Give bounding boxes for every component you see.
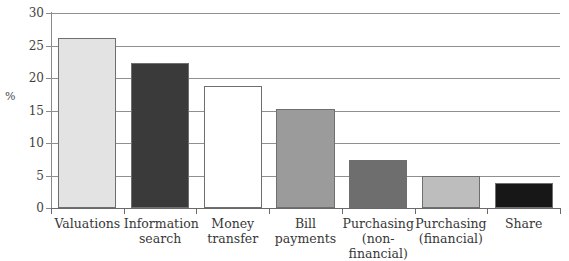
bar-2: [131, 63, 189, 208]
x-label-line: Money: [196, 216, 269, 231]
x-tick-mark-6: [487, 208, 488, 214]
x-axis-line: [51, 208, 560, 209]
x-tick-mark-3: [269, 208, 270, 214]
x-tick-mark-0: [51, 208, 52, 214]
x-label-line: Share: [487, 216, 560, 231]
x-tick-mark-4: [342, 208, 343, 214]
y-axis-unit-label: %: [5, 90, 15, 103]
x-label-line: (non-financial): [342, 231, 415, 261]
y-tick-label-20: 20: [18, 72, 44, 84]
bar-6: [422, 176, 480, 208]
x-axis-category-labels: ValuationsInformationsearchMoneytransfer…: [51, 216, 560, 252]
x-axis-label-4: Billpayments: [269, 216, 342, 246]
x-tick-mark-2: [196, 208, 197, 214]
y-tick-label-0: 0: [18, 202, 44, 214]
bar-1: [58, 38, 116, 208]
x-axis-label-7: Share: [487, 216, 560, 231]
x-label-line: (financial): [415, 231, 488, 246]
x-label-line: Bill: [269, 216, 342, 231]
y-tick-label-25: 25: [18, 40, 44, 52]
y-tick-label-5: 5: [18, 170, 44, 182]
x-axis-label-5: Purchasing(non-financial): [342, 216, 415, 261]
x-label-line: search: [124, 231, 197, 246]
x-label-line: Purchasing: [342, 216, 415, 231]
x-label-line: transfer: [196, 231, 269, 246]
x-axis-label-2: Informationsearch: [124, 216, 197, 246]
y-axis-tick-labels: 051015202530: [18, 0, 44, 252]
bar-3: [204, 86, 262, 208]
bar-7: [495, 183, 553, 208]
x-tick-mark-7: [560, 208, 561, 214]
y-tick-label-30: 30: [18, 7, 44, 19]
y-tick-label-10: 10: [18, 137, 44, 149]
x-tick-mark-1: [124, 208, 125, 214]
x-label-line: Information: [124, 216, 197, 231]
x-tick-mark-5: [415, 208, 416, 214]
bar-5: [349, 160, 407, 208]
bar-4: [276, 109, 334, 208]
x-axis-label-1: Valuations: [51, 216, 124, 231]
x-axis-label-3: Moneytransfer: [196, 216, 269, 246]
y-tick-label-15: 15: [18, 105, 44, 117]
x-label-line: Valuations: [51, 216, 124, 231]
x-label-line: Purchasing: [415, 216, 488, 231]
bar-series: [51, 13, 560, 208]
x-axis-label-6: Purchasing(financial): [415, 216, 488, 246]
x-label-line: payments: [269, 231, 342, 246]
